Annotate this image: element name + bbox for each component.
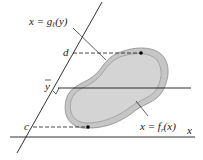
c-label: c	[24, 120, 29, 132]
d-label: d	[63, 46, 69, 58]
f-label: x = fr(x)	[139, 120, 176, 134]
rotation-region-diagram: x = gℓ(y) d y c x = fr(x) x	[0, 0, 203, 160]
x-axis-label: x	[186, 124, 192, 136]
g-label: x = gℓ(y)	[28, 15, 68, 29]
right-angle-mark	[53, 88, 59, 94]
ybar-label: y	[44, 80, 50, 92]
bottom-point	[86, 125, 90, 129]
top-point	[139, 51, 143, 55]
